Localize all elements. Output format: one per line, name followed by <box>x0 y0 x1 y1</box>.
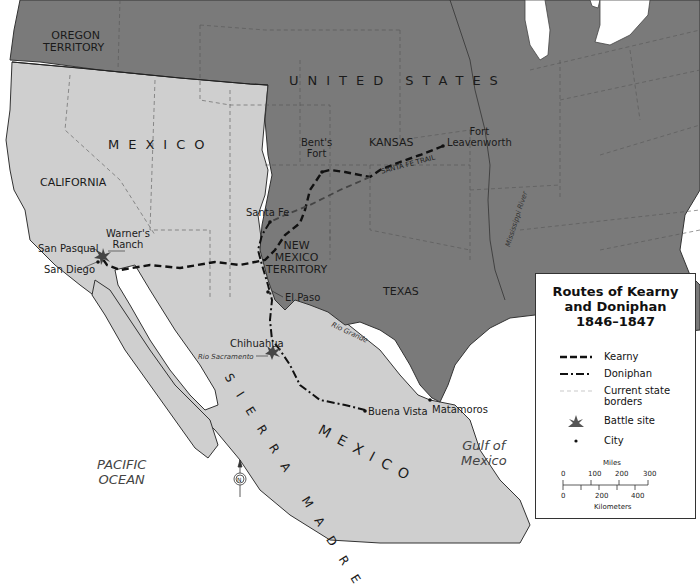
label-santa-fe: Santa Fe <box>246 207 289 218</box>
compass-label: N <box>237 474 242 485</box>
scale-km-label: Kilometers <box>594 503 631 511</box>
legend-title-line: and Doniphan <box>536 299 695 314</box>
label-line: TERRITORY <box>43 42 104 54</box>
label-line: TERRITORY <box>266 264 327 276</box>
legend-title-line: 1846–1847 <box>536 314 695 329</box>
label-line: Leavenworth <box>447 137 512 148</box>
label-new-mexico-territory: NEW MEXICO TERRITORY <box>266 240 327 276</box>
legend-label: Battle site <box>604 415 655 426</box>
battle-star-icon <box>558 413 594 429</box>
dashed-line-icon <box>558 349 594 365</box>
label-san-diego: San Diego <box>44 264 95 275</box>
label-line: Fort <box>301 148 332 159</box>
legend-item-battle-site: Battle site <box>536 413 695 429</box>
label-mexico: MEXICO <box>108 139 213 150</box>
scale-km-tick: 200 <box>595 492 608 500</box>
label-line: Bent's <box>301 137 332 148</box>
scale-mile-tick: 0 <box>561 470 565 478</box>
label-line: Ranch <box>106 239 150 250</box>
legend-box: Routes of Kearny and Doniphan 1846–1847 … <box>535 273 696 519</box>
label-pacific-ocean: PACIFIC OCEAN <box>97 457 146 487</box>
label-san-pasqual: San Pasqual <box>38 243 99 254</box>
label-oregon-territory: OREGON TERRITORY <box>47 30 104 54</box>
scale-km-tick: 400 <box>631 492 644 500</box>
dash-dot-line-icon <box>558 366 594 382</box>
label-line: OCEAN <box>97 472 146 487</box>
label-warners-ranch: Warner's Ranch <box>106 228 150 250</box>
label-line: Mexico <box>461 453 507 468</box>
legend-item-doniphan: Doniphan <box>536 366 695 382</box>
scale-km-tick: 0 <box>561 492 565 500</box>
label-united-states: UNITED STATES <box>289 75 507 86</box>
label-matamoros: Matamoros <box>432 404 488 415</box>
legend-title: Routes of Kearny and Doniphan 1846–1847 <box>536 284 695 329</box>
scale-mile-tick: 100 <box>588 470 601 478</box>
scale-miles-label: Miles <box>603 459 621 467</box>
thin-dashed-line-icon <box>558 383 594 399</box>
label-california: CALIFORNIA <box>40 177 106 189</box>
label-line: PACIFIC <box>97 457 146 472</box>
label-kansas: KANSAS <box>369 137 413 149</box>
label-texas: TEXAS <box>383 286 419 298</box>
scale-mile-tick: 300 <box>643 470 656 478</box>
label-gulf-of-mexico: Gulf of Mexico <box>461 438 507 468</box>
legend-title-line: Routes of Kearny <box>536 284 695 299</box>
legend-label: Current state borders <box>604 385 670 407</box>
legend-label-line: Current state <box>604 385 670 396</box>
label-buena-vista: Buena Vista <box>368 406 428 417</box>
label-rio-sacramento: Rio Sacramento <box>198 352 254 363</box>
label-el-paso: El Paso <box>285 292 320 303</box>
label-line: Gulf of <box>461 438 507 453</box>
city-dot-icon <box>558 433 594 449</box>
legend-item-kearny: Kearny <box>536 349 695 365</box>
scale-bar <box>562 479 657 491</box>
legend-label: Kearny <box>604 351 639 362</box>
label-fort-leavenworth: Fort Leavenworth <box>447 126 512 148</box>
label-line: Fort <box>447 126 512 137</box>
scale-mile-tick: 200 <box>615 470 628 478</box>
label-chihuahua: Chihuahua <box>230 338 284 349</box>
legend-label-line: borders <box>604 396 670 407</box>
legend-item-state-borders: Current state borders <box>536 383 695 411</box>
legend-label: City <box>604 435 624 446</box>
label-line: Warner's <box>106 228 150 239</box>
label-bents-fort: Bent's Fort <box>301 137 332 159</box>
legend-item-city: City <box>536 433 695 449</box>
legend-label: Doniphan <box>604 368 652 379</box>
